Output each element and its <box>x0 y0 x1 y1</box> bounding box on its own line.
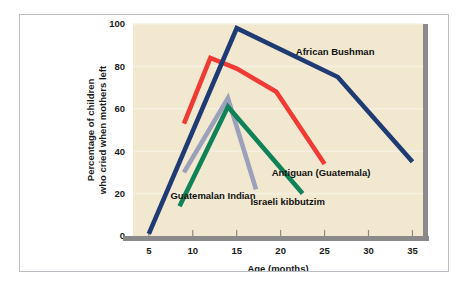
x-tick-label-35: 35 <box>407 245 418 256</box>
y-tick-label-40: 40 <box>114 146 125 157</box>
y-tick-label-100: 100 <box>109 18 125 29</box>
series-label-african-bushman: African Bushman <box>296 46 375 57</box>
y-axis-title-line1: Percentage of children <box>85 79 96 182</box>
y-axis-bar-right <box>423 24 428 241</box>
x-tick-label-25: 25 <box>319 245 330 256</box>
x-tick-label-10: 10 <box>187 245 198 256</box>
series-label-antiguan-guatemala: Antiguan (Guatemala) <box>272 167 371 178</box>
y-axis-title-line2: who cried when mothers left <box>97 65 108 195</box>
series-label-israeli-kibbutzim: Israeli kibbutzim <box>250 196 324 207</box>
y-tick-label-60: 60 <box>114 103 125 114</box>
x-tick-label-5: 5 <box>146 245 152 256</box>
y-tick-label-20: 20 <box>114 188 125 199</box>
line-chart: 020406080100Percentage of childrenwho cr… <box>20 15 448 271</box>
figure-frame: 020406080100Percentage of childrenwho cr… <box>19 14 449 272</box>
series-label-guatemalan-indian: Guatemalan Indian <box>170 190 255 201</box>
y-tick-label-80: 80 <box>114 61 125 72</box>
x-tick-label-30: 30 <box>363 245 374 256</box>
figure-root: 020406080100Percentage of childrenwho cr… <box>0 0 463 289</box>
x-tick-label-15: 15 <box>231 245 242 256</box>
x-axis-title: Age (months) <box>247 263 308 271</box>
x-axis-bar <box>123 236 429 241</box>
x-tick-label-20: 20 <box>275 245 286 256</box>
